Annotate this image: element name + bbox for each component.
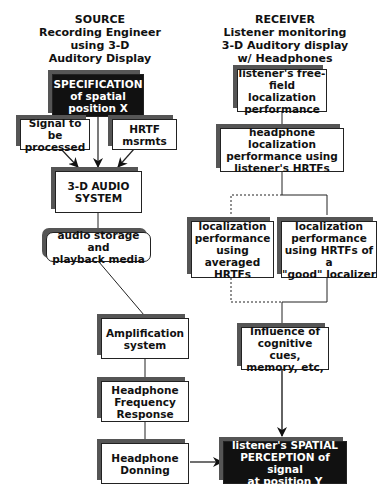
good-localizer-label: localization performance using HRTFs of … xyxy=(282,220,376,280)
perception-box: listener's SPATIAL PERCEPTION of signal … xyxy=(223,441,347,484)
hrtf-to-audio-arrow xyxy=(118,149,134,167)
audio-system-box: 3-D AUDIO SYSTEM xyxy=(55,171,142,213)
specification-box: SPECIFICATION of spatial position X xyxy=(52,74,144,117)
free-field-label: listener's free- field localization perf… xyxy=(238,67,326,115)
averaged-hrtf-box: localization performance using averaged … xyxy=(191,221,274,278)
hrtf-box: HRTF msrmts xyxy=(112,119,177,150)
signal-box: Signal to be processed xyxy=(20,119,90,150)
storage-box: audio storage and playback media xyxy=(46,232,151,262)
averaged-top-dotted-line xyxy=(231,195,282,215)
cognitive-label: Influence of cognitive cues, memory, etc… xyxy=(242,325,328,373)
averaged-hrtf-label: localization performance using averaged … xyxy=(192,220,273,280)
storage-label: audio storage and playback media xyxy=(47,229,150,265)
receiver-header: RECEIVER Listener monitoring 3-D Auditor… xyxy=(205,13,365,65)
amplification-box: Amplification system xyxy=(101,318,189,359)
averaged-bottom-dotted-line xyxy=(231,278,282,302)
donning-label: Headphone Donning xyxy=(111,452,178,476)
specification-label: SPECIFICATION of spatial position X xyxy=(54,78,143,114)
headphone-localization-label: headphone localization performance using… xyxy=(221,126,343,174)
hrtf-label: HRTF msrmts xyxy=(122,123,167,147)
perception-label: listener's SPATIAL PERCEPTION of signal … xyxy=(224,439,346,487)
amplification-label: Amplification system xyxy=(106,327,184,351)
good-bottom-line xyxy=(282,278,327,302)
signal-label: Signal to be processed xyxy=(21,117,89,153)
frequency-box: Headphone Frequency Response xyxy=(101,381,189,422)
donning-box: Headphone Donning xyxy=(101,443,189,484)
frequency-label: Headphone Frequency Response xyxy=(111,384,178,420)
source-header: SOURCE Recording Engineer using 3-D Audi… xyxy=(20,13,180,65)
storage-to-amp-line xyxy=(99,262,144,315)
cognitive-box: Influence of cognitive cues, memory, etc… xyxy=(241,327,329,370)
headphone-localization-box: headphone localization performance using… xyxy=(220,128,344,172)
good-localizer-box: localization performance using HRTFs of … xyxy=(281,221,377,278)
audio-system-label: 3-D AUDIO SYSTEM xyxy=(68,180,130,204)
free-field-box: listener's free- field localization perf… xyxy=(237,69,327,112)
